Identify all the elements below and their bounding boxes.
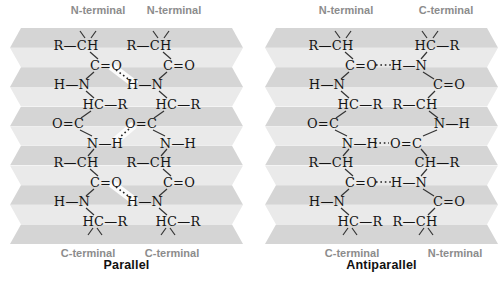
- right-strand-group: R—CH: [393, 98, 438, 111]
- left-strand-group: O=C: [307, 117, 339, 130]
- right-strand-group: HC—R: [156, 98, 201, 111]
- terminal-label: N-terminal: [147, 4, 201, 16]
- right-strand-group: O=C: [125, 117, 157, 130]
- left-strand-group: HC—R: [338, 215, 383, 228]
- left-strand-group: H—N: [54, 195, 90, 208]
- left-strand-group: O=C: [52, 117, 84, 130]
- chem-groups: R—CHC=OH—NHC—RO=CN—HR—CHC=OH—NHC—RR—CHC=…: [10, 28, 243, 244]
- left-strand-group: R—CH: [54, 156, 99, 169]
- left-strand-group: HC—R: [83, 215, 128, 228]
- right-strand-group: H—N: [391, 59, 427, 72]
- left-strand-group: HC—R: [83, 98, 128, 111]
- left-strand-group: C=O: [345, 59, 377, 72]
- left-strand-group: N—H: [342, 137, 378, 150]
- beta-sheet-figure: N-terminal N-terminal R—CHC=OH—NHC—RO=CN…: [0, 0, 504, 284]
- antiparallel-sheet-panel: N-terminal C-terminal R—CHC=OH—NHC—RO=CN…: [265, 0, 498, 284]
- right-strand-group: R—CH: [393, 215, 438, 228]
- left-strand-group: R—CH: [309, 156, 354, 169]
- left-strand-group: H—N: [309, 195, 345, 208]
- right-strand-group: N—H: [160, 137, 196, 150]
- right-strand-group: N—H: [434, 117, 470, 130]
- right-strand-group: C=O: [433, 78, 465, 91]
- parallel-sheet-panel: N-terminal N-terminal R—CHC=OH—NHC—RO=CN…: [10, 0, 243, 284]
- panel-title: Antiparallel: [265, 258, 498, 272]
- left-strand-group: R—CH: [309, 39, 354, 52]
- left-strand-group: C=O: [90, 176, 122, 189]
- right-strand-group: HC—R: [156, 215, 201, 228]
- left-strand-group: HC—R: [338, 98, 383, 111]
- chem-groups: R—CHC=OH—NHC—RO=CN—HR—CHC=OH—NHC—RHC—RH—…: [265, 28, 498, 244]
- right-strand-group: C=O: [433, 195, 465, 208]
- terminal-label: C-terminal: [419, 4, 473, 16]
- left-strand-group: C=O: [345, 176, 377, 189]
- left-strand-group: N—H: [87, 137, 123, 150]
- right-strand-group: R—CH: [127, 39, 172, 52]
- right-strand-group: CH—R: [415, 156, 460, 169]
- panel-title: Parallel: [10, 258, 243, 272]
- right-strand-group: C=O: [163, 59, 195, 72]
- left-strand-group: C=O: [90, 59, 122, 72]
- left-strand-group: R—CH: [54, 39, 99, 52]
- right-strand-group: HC—R: [415, 39, 460, 52]
- left-strand-group: H—N: [54, 78, 90, 91]
- right-strand-group: H—N: [127, 195, 163, 208]
- right-strand-group: R—CH: [127, 156, 172, 169]
- right-strand-group: H—N: [127, 78, 163, 91]
- terminal-label: N-terminal: [319, 4, 373, 16]
- right-strand-group: H—N: [391, 176, 427, 189]
- right-strand-group: O=C: [390, 137, 422, 150]
- right-strand-group: C=O: [163, 176, 195, 189]
- terminal-label: N-terminal: [71, 4, 125, 16]
- left-strand-group: H—N: [309, 78, 345, 91]
